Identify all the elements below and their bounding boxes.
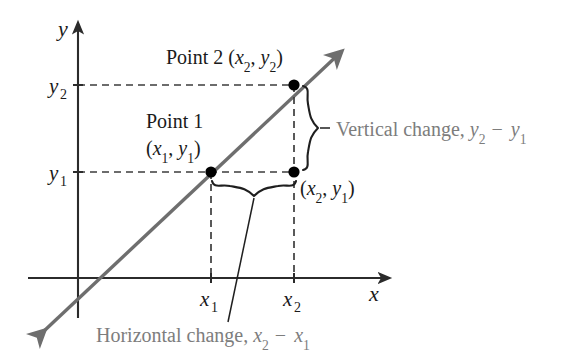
tick-label-x2: x 2: [282, 287, 301, 315]
point-1-comma: ,: [168, 137, 178, 159]
leader-lines-group: [228, 128, 330, 322]
point-2-suffix: ): [276, 46, 283, 69]
corner-comma: ,: [322, 177, 332, 199]
tick-label-y2-subscript: 2: [60, 87, 67, 102]
vertical-change-a-subscript: 2: [479, 132, 486, 147]
horizontal-change-text: Horizontal change,: [96, 324, 253, 347]
tick-label-y2-base: y: [47, 74, 59, 98]
corner-y-subscript: 1: [341, 191, 348, 206]
tick-label-y1-subscript: 1: [60, 174, 67, 189]
point-1-y-subscript: 1: [187, 151, 194, 166]
corner-x-base: x: [306, 177, 316, 199]
diagram-canvas: y x y 2 y 1 x 1 x 2 Point 2 (x2, y2) Poi…: [0, 0, 576, 360]
slope-line-group: [44, 52, 341, 331]
horizontal-change-label: Horizontal change, x2−x1: [96, 324, 310, 353]
tick-label-x1-subscript: 1: [211, 300, 218, 315]
tick-label-y1: y 1: [47, 161, 67, 189]
vertical-change-brace: [303, 86, 318, 170]
point-2-prefix: Point 2 (: [166, 46, 235, 69]
point-corner-marker[interactable]: [288, 166, 299, 177]
horizontal-change-a-subscript: 2: [262, 338, 269, 353]
vertical-change-label: Vertical change, y2−y1: [336, 118, 526, 147]
horizontal-change-leader: [228, 198, 254, 322]
tick-label-x1: x 1: [199, 287, 218, 315]
point-1-annotation-coords: (x1, y1): [146, 137, 201, 166]
points-group: [205, 79, 299, 177]
corner-y-base: y: [330, 177, 341, 200]
slope-line: [44, 52, 341, 331]
point-2-x-base: x: [234, 46, 244, 68]
point-2-marker[interactable]: [288, 79, 299, 90]
tick-label-x1-base: x: [199, 287, 210, 311]
vertical-change-text: Vertical change,: [336, 118, 470, 141]
point-1-marker[interactable]: [205, 166, 216, 177]
horizontal-change-b-subscript: 1: [303, 338, 310, 353]
corner-point-annotation: (x2, y1): [300, 177, 355, 206]
horizontal-change-brace: [212, 181, 296, 196]
point-1-y-base: y: [176, 137, 187, 160]
horizontal-change-b-base: x: [293, 324, 303, 346]
point-1-x-subscript: 1: [162, 151, 169, 166]
vertical-change-a-base: y: [468, 118, 479, 141]
point-2-y-base: y: [259, 46, 270, 69]
y-axis-label: y: [56, 16, 68, 41]
x-axis-label: x: [368, 281, 379, 306]
slope-diagram-figure: y x y 2 y 1 x 1 x 2 Point 2 (x2, y2) Poi…: [0, 0, 576, 360]
tick-label-x2-base: x: [282, 287, 293, 311]
vertical-change-minus: −: [492, 118, 503, 140]
tick-label-y2: y 2: [47, 74, 67, 102]
point-1-x-base: x: [152, 137, 162, 159]
vertical-change-b-base: y: [509, 118, 520, 141]
point-2-annotation: Point 2 (x2, y2): [166, 46, 283, 75]
corner-close: ): [348, 177, 355, 200]
horizontal-change-minus: −: [275, 324, 286, 346]
point-1-annotation-title: Point 1: [146, 110, 203, 132]
vertical-change-b-subscript: 1: [520, 132, 527, 147]
point-1-coords-close: ): [194, 137, 201, 160]
point-2-comma: ,: [251, 46, 261, 68]
tick-label-y1-base: y: [47, 161, 59, 185]
tick-label-x2-subscript: 2: [294, 300, 301, 315]
horizontal-change-a-base: x: [252, 324, 262, 346]
